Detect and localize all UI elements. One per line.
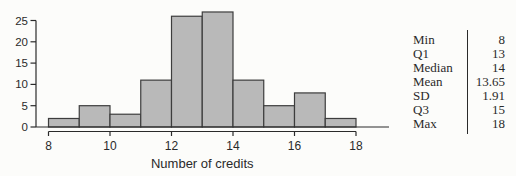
x-tick-label: 10 [103,139,117,153]
x-axis-title: Number of credits [151,156,254,171]
histogram-bar [110,114,141,127]
table-row: Min 8 [413,33,505,47]
y-tick-label: 10 [15,78,28,90]
histogram-bar [79,106,110,127]
x-tick-label: 14 [226,139,240,153]
histogram-bar [172,16,203,127]
x-tick-label: 12 [165,139,179,153]
stat-value: 18 [467,117,505,131]
x-tick-label: 8 [45,139,52,153]
histogram-chart: 051015202581012141618Number of credits [0,0,400,176]
summary-stats-table: Min 8 Q1 13 Median 14 Mean 13.65 SD 1.91… [413,33,505,131]
histogram-bar [325,118,356,127]
y-tick-label: 5 [22,100,28,112]
stat-value: 13.65 [467,75,505,89]
table-row: Mean 13.65 [413,75,505,89]
stat-label: Q3 [413,103,467,117]
table-row: Q3 15 [413,103,505,117]
x-tick-label: 16 [288,139,302,153]
stat-label: Max [413,117,467,131]
histogram-bar [264,106,295,127]
stat-value: 14 [467,61,505,75]
stat-label: SD [413,89,467,103]
histogram-bar [295,93,326,127]
y-tick-label: 0 [22,121,28,133]
stat-value: 1.91 [467,89,505,103]
stat-label: Min [413,33,467,47]
histogram-bar [49,118,80,127]
x-tick-label: 18 [349,139,363,153]
y-tick-label: 20 [15,36,28,48]
table-row: Median 14 [413,61,505,75]
stat-label: Median [413,61,467,75]
y-tick-label: 15 [15,57,28,69]
y-tick-label: 25 [15,15,28,27]
figure: 051015202581012141618Number of credits M… [0,0,516,176]
histogram-bar [233,80,264,127]
table-row: SD 1.91 [413,89,505,103]
stat-value: 13 [467,47,505,61]
stat-label: Mean [413,75,467,89]
table-divider [467,30,468,134]
table-row: Q1 13 [413,47,505,61]
stat-value: 8 [467,33,505,47]
stat-value: 15 [467,103,505,117]
stat-label: Q1 [413,47,467,61]
histogram-bar [141,80,172,127]
table-row: Max 18 [413,117,505,131]
histogram-bar [202,12,233,127]
